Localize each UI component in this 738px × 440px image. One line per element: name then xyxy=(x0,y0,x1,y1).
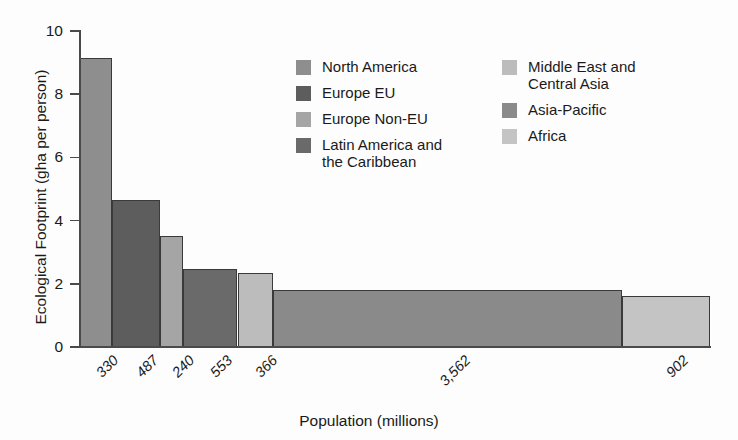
y-tick-label: 8 xyxy=(54,85,63,103)
y-tick-label: 0 xyxy=(54,338,63,356)
x-tick-label: 902 xyxy=(663,352,691,380)
x-axis-title: Population (millions) xyxy=(0,412,738,430)
y-tick-8: 8 xyxy=(70,93,80,95)
x-tick-label: 3,562 xyxy=(436,352,473,389)
legend-swatch-icon xyxy=(502,103,517,118)
legend-swatch-icon xyxy=(502,129,517,144)
legend-label: Latin America and the Caribbean xyxy=(322,136,442,170)
bar-middle-east-and-central-asia xyxy=(238,273,274,347)
legend-item-europe-eu: Europe EU xyxy=(296,84,442,101)
bar-latin-america-and-the-caribbean xyxy=(183,269,237,347)
x-axis-line xyxy=(79,346,711,348)
y-tick-2: 2 xyxy=(70,283,80,285)
legend-swatch-icon xyxy=(502,60,517,75)
legend-swatch-icon xyxy=(296,86,311,101)
legend-column-1: North AmericaEurope EUEurope Non-EULatin… xyxy=(296,58,442,179)
y-axis-line xyxy=(79,30,81,348)
legend-item-latin-america-and-the-caribbean: Latin America and the Caribbean xyxy=(296,136,442,170)
legend-item-asia-pacific: Asia-Pacific xyxy=(502,101,636,118)
x-tick-label: 330 xyxy=(93,352,121,380)
bar-europe-eu xyxy=(112,200,160,347)
y-tick-0: 0 xyxy=(70,346,80,348)
x-tick-label: 240 xyxy=(169,352,197,380)
x-tick-label: 487 xyxy=(133,352,161,380)
legend-item-europe-non-eu: Europe Non-EU xyxy=(296,110,442,127)
chart-figure: 0246810 3304872405533663,562902 Ecologic… xyxy=(0,0,738,440)
x-tick-label: 366 xyxy=(252,352,280,380)
legend-item-africa: Africa xyxy=(502,127,636,144)
legend-label: Europe Non-EU xyxy=(322,110,428,127)
y-tick-label: 2 xyxy=(54,275,63,293)
y-tick-10: 10 xyxy=(70,30,80,32)
bar-asia-pacific xyxy=(273,290,621,347)
y-tick-6: 6 xyxy=(70,157,80,159)
bar-north-america xyxy=(80,58,112,347)
legend-swatch-icon xyxy=(296,112,311,127)
legend-item-north-america: North America xyxy=(296,58,442,75)
bar-europe-non-eu xyxy=(160,236,183,347)
legend-label: North America xyxy=(322,58,417,75)
legend-label: Africa xyxy=(528,127,566,144)
legend-item-middle-east-and-central-asia: Middle East and Central Asia xyxy=(502,58,636,92)
y-axis-title: Ecological Footprint (gha per person) xyxy=(32,32,50,362)
x-tick-label: 553 xyxy=(207,352,235,380)
legend-label: Asia-Pacific xyxy=(528,101,606,118)
legend-swatch-icon xyxy=(296,138,311,153)
y-tick-label: 6 xyxy=(54,148,63,166)
bar-africa xyxy=(622,296,710,347)
legend-label: Middle East and Central Asia xyxy=(528,58,636,92)
chart-legend: North AmericaEurope EUEurope Non-EULatin… xyxy=(296,58,636,179)
legend-swatch-icon xyxy=(296,60,311,75)
legend-label: Europe EU xyxy=(322,84,395,101)
y-tick-4: 4 xyxy=(70,220,80,222)
legend-column-2: Middle East and Central AsiaAsia-Pacific… xyxy=(502,58,636,153)
y-tick-label: 4 xyxy=(54,212,63,230)
